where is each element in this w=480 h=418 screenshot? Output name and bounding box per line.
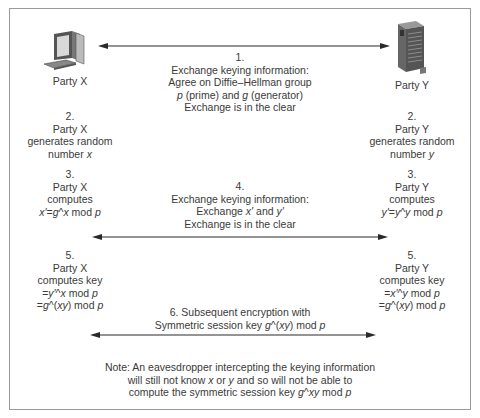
step2-party-x: 2. Party X generates random number x	[20, 110, 120, 160]
step2-party-y: 2. Party Y generates random number y	[362, 110, 462, 160]
step5-party-x: 5. Party X computes key =y'^x mod p =g^(…	[20, 249, 120, 312]
exchange-arrow-4	[92, 232, 388, 242]
exchange-arrow-1	[98, 41, 390, 51]
step3-party-x: 3. Party X computes x'=g^x mod p	[20, 168, 120, 218]
step5-party-y: 5. Party Y computes key =x'^y mod p =g^(…	[362, 249, 462, 312]
party-x-label: Party X	[40, 75, 100, 88]
server-tower-icon	[392, 20, 432, 78]
desktop-computer-icon	[36, 30, 94, 76]
eavesdropper-note: Note: An eavesdropper intercepting the k…	[80, 361, 400, 399]
step6-text: 6. Subsequent encryption with Symmetric …	[120, 306, 360, 331]
step4-text: 4. Exchange keying information: Exchange…	[140, 180, 340, 230]
encryption-arrow-6	[90, 330, 376, 340]
party-y-label: Party Y	[382, 79, 442, 92]
step1-text: 1. Exchange keying information: Agree on…	[140, 51, 340, 114]
step3-party-y: 3. Party Y computes y'=y^y mod p	[362, 168, 462, 218]
